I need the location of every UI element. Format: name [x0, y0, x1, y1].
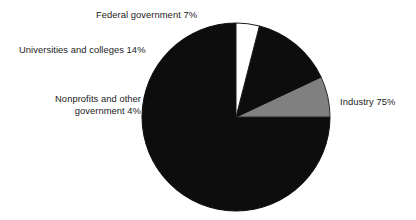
pie-label-industry-text: Industry 75%	[340, 96, 395, 107]
pie-label-universities-and-colleges-text: Universities and colleges 14%	[19, 44, 146, 55]
pie-chart-figure: Federal government 7% Universities and c…	[0, 0, 416, 220]
pie-slice-group	[142, 23, 330, 211]
pie-label-nonprofits-line2: government 4%	[0, 105, 141, 117]
pie-label-federal-government-text: Federal government 7%	[96, 9, 197, 20]
pie-label-federal-government: Federal government 7%	[96, 9, 197, 21]
pie-label-industry: Industry 75%	[340, 96, 395, 108]
pie-label-nonprofits-line1: Nonprofits and other	[0, 93, 141, 105]
pie-label-universities-and-colleges: Universities and colleges 14%	[19, 44, 146, 56]
pie-label-nonprofits-and-other-government: Nonprofits and other government 4%	[0, 93, 141, 116]
